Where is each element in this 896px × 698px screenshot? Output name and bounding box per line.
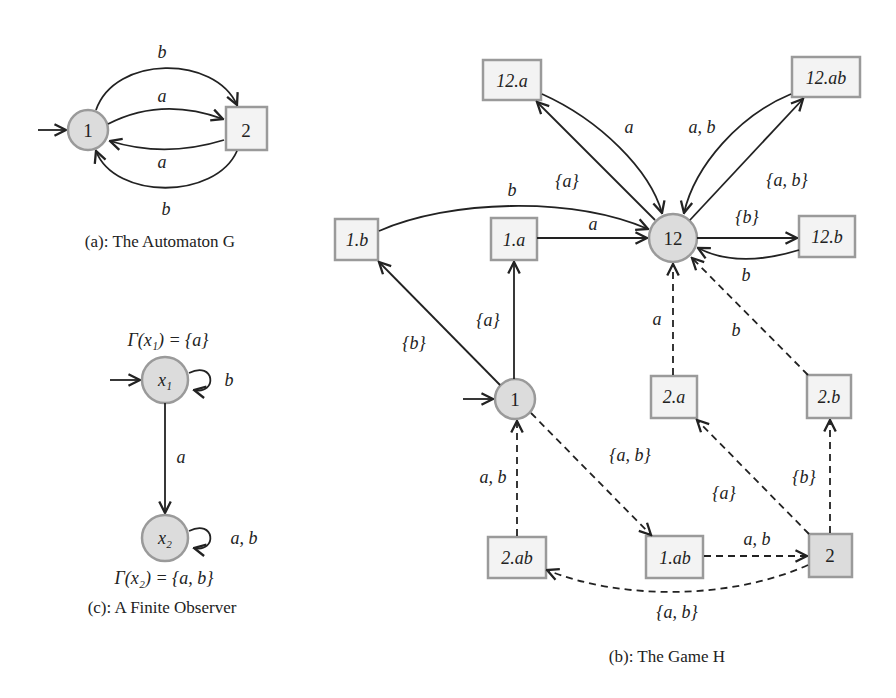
state-1-label: 1 <box>83 120 93 141</box>
caption-a: (a): The Automaton G <box>85 232 235 251</box>
edge-1-2-b <box>96 68 237 110</box>
edge-label: {b} <box>735 207 759 227</box>
edge-label: b <box>742 265 751 285</box>
edge-label: a, b <box>744 529 771 549</box>
edge-label: b <box>732 320 741 340</box>
edge-label: b <box>158 42 167 62</box>
edge-label: a <box>158 86 167 106</box>
edge-label: a <box>589 214 598 234</box>
panel-a-automaton: 1 2 b a a b (a): The Automaton G <box>38 42 267 251</box>
edge-2-1-a <box>110 140 224 149</box>
edge-label: a, b <box>689 117 716 137</box>
gamma-x2-annotation: Γ(x₂) = {a, b} <box>113 568 214 589</box>
caption-c: (c): A Finite Observer <box>88 598 237 617</box>
edge-2-1-b <box>96 151 237 188</box>
edge-label: {a, b} <box>766 170 808 190</box>
edge-label: a <box>653 309 662 329</box>
edge-label: {a} <box>555 171 579 191</box>
edge-label: b <box>225 370 234 390</box>
state-1b-label: 1.b <box>346 230 369 250</box>
state-1ab-label: 1.ab <box>659 548 691 568</box>
edge-label: {a} <box>712 483 736 503</box>
edge-label: {b} <box>402 333 426 353</box>
figure-canvas: 1 2 b a a b (a): The Automaton G Γ(x₁) =… <box>0 0 896 698</box>
state-2a-label: 2.a <box>663 387 686 407</box>
panel-c-observer: Γ(x₁) = {a} x₁ b a x₂ a, b Γ(x₂) = {a, b… <box>88 330 258 617</box>
state-12-label: 12 <box>664 228 683 249</box>
edge-label: {a, b} <box>656 602 698 622</box>
state-2ab-label: 2.ab <box>501 548 533 568</box>
edge-label: {b} <box>792 467 816 487</box>
state-1a-label: 1.a <box>503 230 526 250</box>
gamma-x1-annotation: Γ(x₁) = {a} <box>126 330 209 351</box>
state-12b-label: 12.b <box>811 227 843 247</box>
state-2b-label: 2.b <box>818 387 841 407</box>
edge-label: a <box>625 117 634 137</box>
panel-b-game: 12.a 12.ab 1.b 1.a 12 12.b 1 2.a 2.b 2.a… <box>335 57 860 666</box>
edge-label: a <box>158 152 167 172</box>
state-2-label: 2 <box>825 545 835 566</box>
edge-1-1ab <box>531 413 651 535</box>
state-1-label: 1 <box>510 389 520 410</box>
self-loop-x1 <box>189 370 210 390</box>
edge-12b-12 <box>698 248 799 259</box>
state-12a-label: 12.a <box>496 71 528 91</box>
edge-label: b <box>508 180 517 200</box>
caption-b: (b): The Game H <box>609 647 725 666</box>
edge-label: a, b <box>231 528 258 548</box>
edge-label: {a} <box>476 310 500 330</box>
edge-12-12a <box>537 102 655 220</box>
state-12ab-label: 12.ab <box>806 68 847 88</box>
edge-12ab-12 <box>684 94 791 213</box>
edge-label: a, b <box>480 467 507 487</box>
state-x1-label: x₁ <box>157 370 172 390</box>
self-loop-x2 <box>189 528 210 548</box>
edge-label: a <box>177 447 186 467</box>
state-2-label: 2 <box>241 120 251 141</box>
edge-label: b <box>162 199 171 219</box>
edge-1-2-a <box>108 109 223 124</box>
edge-12a-12 <box>542 94 662 213</box>
state-x2-label: x₂ <box>157 528 172 548</box>
edge-label: {a, b} <box>609 445 651 465</box>
